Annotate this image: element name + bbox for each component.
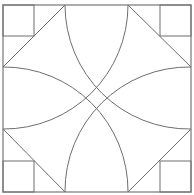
outer-frame bbox=[3, 5, 191, 192]
arc-centered-top-left bbox=[3, 5, 128, 129]
corner-square-top-right bbox=[160, 5, 191, 36]
arc-centered-bottom-left bbox=[3, 67, 128, 192]
corner-square-bottom-left bbox=[3, 161, 34, 192]
quilt-block-diagram bbox=[0, 0, 194, 195]
arc-centered-bottom-right bbox=[65, 67, 191, 192]
corner-square-bottom-right bbox=[160, 161, 191, 192]
arc-centered-top-right bbox=[65, 5, 191, 129]
corner-square-top-left bbox=[3, 5, 34, 36]
